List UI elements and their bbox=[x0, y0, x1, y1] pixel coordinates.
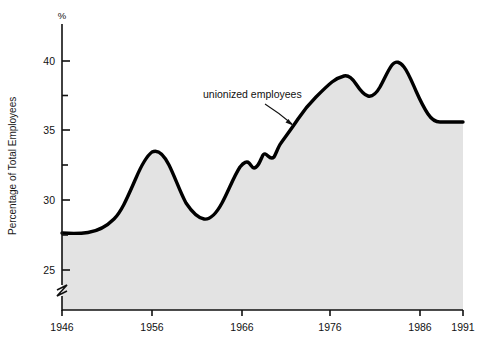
y-tick-label-25: 25 bbox=[43, 264, 55, 276]
x-tick-label-1976: 1976 bbox=[318, 321, 342, 333]
x-tick-label-1966: 1966 bbox=[230, 321, 254, 333]
x-tick-label-1956: 1956 bbox=[140, 321, 164, 333]
x-tick-label-1946: 1946 bbox=[50, 321, 74, 333]
x-tick-label-1986: 1986 bbox=[408, 321, 432, 333]
y-tick-label-35: 35 bbox=[43, 124, 55, 136]
series-annotation-label: unionized employees bbox=[203, 88, 302, 100]
x-axis bbox=[62, 310, 463, 316]
y-tick-label-40: 40 bbox=[43, 55, 55, 67]
y-axis-title: Percentage of Total Employees bbox=[7, 97, 18, 235]
chart-container: % 40 35 30 25 1946 1956 1966 1976 1986 1… bbox=[0, 0, 492, 338]
y-axis-unit-label: % bbox=[58, 10, 67, 21]
y-tick-label-30: 30 bbox=[43, 194, 55, 206]
x-tick-label-1991: 1991 bbox=[451, 321, 475, 333]
union-membership-area-chart: % 40 35 30 25 1946 1956 1966 1976 1986 1… bbox=[0, 0, 492, 338]
